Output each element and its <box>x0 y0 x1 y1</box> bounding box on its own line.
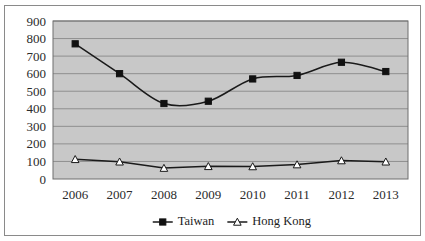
y-tick-label: 700 <box>27 49 47 64</box>
y-tick-label: 200 <box>27 136 47 151</box>
data-point-marker <box>116 71 122 77</box>
legend-item-taiwan[interactable]: Taiwan <box>153 214 215 228</box>
x-tick-label: 2011 <box>284 187 310 202</box>
y-tick-label: 500 <box>27 84 47 99</box>
plot-background <box>53 21 408 179</box>
data-point-marker <box>250 76 256 82</box>
x-tick-label: 2008 <box>151 187 177 202</box>
y-tick-label: 100 <box>27 154 47 169</box>
y-tick-label: 900 <box>27 14 47 29</box>
chart-figure: 0100200300400500600700800900200620072008… <box>0 0 425 241</box>
x-tick-label: 2013 <box>373 187 399 202</box>
x-tick-label: 2010 <box>240 187 266 202</box>
y-tick-label: 0 <box>40 172 47 187</box>
data-point-marker <box>160 219 166 225</box>
data-point-marker <box>161 100 167 106</box>
chart-legend: TaiwanHong Kong <box>153 214 312 228</box>
legend-item-hong-kong[interactable]: Hong Kong <box>227 214 311 228</box>
x-tick-label: 2007 <box>107 187 134 202</box>
legend-label: Hong Kong <box>252 214 311 228</box>
x-tick-label: 2012 <box>328 187 354 202</box>
x-tick-label: 2006 <box>62 187 89 202</box>
data-point-marker <box>338 59 344 65</box>
y-tick-label: 600 <box>27 66 47 81</box>
x-tick-label: 2009 <box>195 187 221 202</box>
chart-frame: 0100200300400500600700800900200620072008… <box>4 5 421 236</box>
legend-label: Taiwan <box>178 214 215 228</box>
y-tick-label: 300 <box>27 119 47 134</box>
y-axis-ticks: 0100200300400500600700800900 <box>27 14 47 187</box>
x-axis-ticks: 20062007200820092010201120122013 <box>62 187 399 202</box>
data-point-marker <box>294 72 300 78</box>
y-tick-label: 400 <box>27 101 47 116</box>
data-point-marker <box>383 68 389 74</box>
data-point-marker <box>72 41 78 47</box>
line-chart: 0100200300400500600700800900200620072008… <box>5 6 420 235</box>
data-point-marker <box>205 98 211 104</box>
y-tick-label: 800 <box>27 31 47 46</box>
